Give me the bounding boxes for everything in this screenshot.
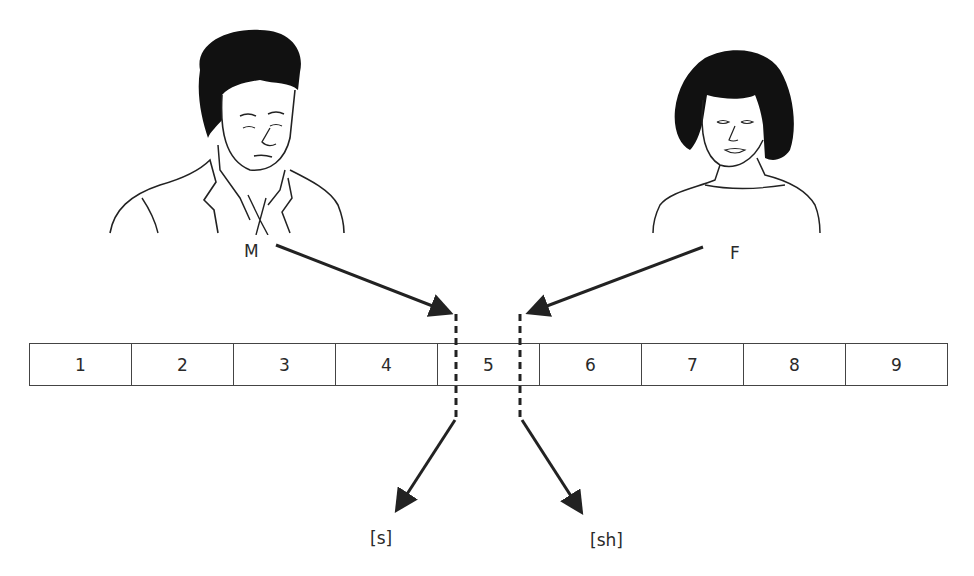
female-arrow: [531, 247, 703, 312]
male-arrow: [276, 245, 448, 312]
output-sh-label: [sh]: [590, 530, 623, 550]
output-s-label: [s]: [370, 528, 392, 548]
s-arrow: [398, 420, 455, 508]
arrows-layer: [0, 0, 974, 576]
sh-arrow: [522, 420, 580, 510]
